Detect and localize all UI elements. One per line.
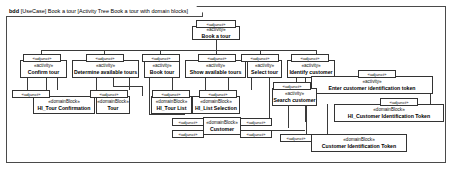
adjunct-tag-customer-lower-left: «adjunct» <box>172 130 204 138</box>
edge-determine-to-tourlist <box>142 86 143 96</box>
edge-show-right <box>228 78 229 90</box>
edge-determine-right <box>129 78 130 90</box>
adjunct-tag-enter-customer-id-token: «adjunct» <box>358 70 396 78</box>
node-enter-customer-identification-token-name: Enter customer identification token <box>328 85 415 92</box>
node-search-customer-name: Search customer <box>273 97 315 104</box>
node-determine-available-tours[interactable]: «activity» Determine available tours <box>72 60 139 78</box>
node-book-tour-name: Book tour <box>150 69 175 76</box>
adjunct-tag-select-tour: «adjunct» <box>241 54 279 62</box>
adjunct-tag-confirm-tour: «adjunct» <box>23 54 61 62</box>
edge-row2-bus <box>41 50 316 51</box>
node-hi-customer-identification-token-name: HI_Customer Identification Token <box>348 113 430 120</box>
node-hi-customer-identification-token[interactable]: «domainBlock» HI_Customer Identification… <box>334 104 444 122</box>
node-customer-name: Customer <box>210 126 234 133</box>
adjunct-tag-customer-upper-left: «adjunct» <box>172 118 204 126</box>
adjunct-tag-customer-upper-right: «adjunct» <box>240 118 272 126</box>
adjunct-tag-hi-list-selection: «adjunct» <box>199 90 237 98</box>
adjunct-tag-customer-lower-right: «adjunct» <box>240 130 272 138</box>
node-hi-tour-confirmation[interactable]: «domainBlock» HI_Tour Confirmation <box>33 96 95 114</box>
edge-show-left <box>205 78 206 90</box>
edge-confirm-tour-mid <box>46 78 47 90</box>
adjunct-tag-identify-customer: «adjunct» <box>291 54 329 62</box>
edge-determine-left <box>96 78 97 90</box>
node-confirm-tour-name: Confirm tour <box>28 69 59 76</box>
adjunct-tag-hi-tour-list: «adjunct» <box>152 90 190 98</box>
edge-confirm-tour-right <box>57 78 58 90</box>
node-hi-list-selection-name: HI_List Selection <box>195 105 237 112</box>
node-hi-tour-list[interactable]: «domainBlock» HI_Tour List <box>151 96 192 114</box>
node-tour-name: Tour <box>107 105 118 112</box>
node-enter-customer-identification-token[interactable]: «activity» Enter customer identification… <box>311 76 433 94</box>
adjunct-tag-book-tour: «adjunct» <box>142 54 180 62</box>
diagram-frame-label: bdd [UseCase] Book a tour [Activity Tree… <box>6 6 203 17</box>
node-customer-identification-token-name: Customer Identification Token <box>322 143 396 150</box>
node-tour[interactable]: «domainBlock» Tour <box>96 96 130 114</box>
node-hi-tour-list-name: HI_Tour List <box>157 105 187 112</box>
edge-book-tour-elbow <box>149 114 185 115</box>
node-customer-identification-token[interactable]: «domainBlock» Customer Identification To… <box>311 134 407 152</box>
adjunct-tag-book-a-tour: «adjunct» <box>196 20 236 28</box>
node-search-customer[interactable]: «activity» Search customer <box>272 88 317 106</box>
adjunct-tag-hi-tour-confirmation: «adjunct» <box>12 90 50 98</box>
adjunct-tag-show-available-tours: «adjunct» <box>198 54 236 62</box>
edge-search-left <box>288 106 289 128</box>
edge-select-right <box>269 78 270 122</box>
node-show-available-tours[interactable]: «activity» Show available tours <box>185 60 246 78</box>
node-book-tour[interactable]: «activity» Book tour <box>144 60 180 78</box>
node-hi-tour-confirmation-name: HI_Tour Confirmation <box>38 105 91 112</box>
adjunct-tag-customer-identification-token: «adjunct» <box>280 134 312 142</box>
node-determine-available-tours-name: Determine available tours <box>74 69 137 76</box>
diagram-canvas: bdd [UseCase] Book a tour [Activity Tree… <box>0 0 454 171</box>
edge-determine-elbow <box>113 86 142 87</box>
edge-determine-mid <box>113 78 114 86</box>
edge-select-left <box>251 78 252 90</box>
adjunct-tag-hi-customer-id-token: «adjunct» <box>380 98 418 106</box>
adjunct-tag-search-customer: «adjunct» <box>273 82 311 90</box>
node-identify-customer-name: Identify customer <box>289 69 332 76</box>
diagram-title-label: [UseCase] Book a tour [Activity Tree Boo… <box>21 8 189 14</box>
node-customer[interactable]: «domainBlock» Customer <box>203 117 241 135</box>
node-select-tour[interactable]: «activity» Select tour <box>247 60 282 78</box>
adjunct-tag-tour: «adjunct» <box>90 90 128 98</box>
edge-book-tour-right <box>172 78 173 90</box>
node-hi-list-selection[interactable]: «domainBlock» HI_List Selection <box>192 96 240 114</box>
node-show-available-tours-name: Show available tours <box>190 69 242 76</box>
node-confirm-tour[interactable]: «activity» Confirm tour <box>20 60 67 78</box>
diagram-kind-label: bdd <box>9 8 19 14</box>
node-select-tour-name: Select tour <box>251 69 278 76</box>
node-book-a-tour-name: Book a tour <box>202 33 231 40</box>
adjunct-tag-determine-available-tours: «adjunct» <box>86 54 124 62</box>
edge-token-to-block <box>327 104 328 138</box>
edge-book-tour-left <box>149 78 150 114</box>
node-book-a-tour[interactable]: «activity» Book a tour <box>192 26 240 40</box>
